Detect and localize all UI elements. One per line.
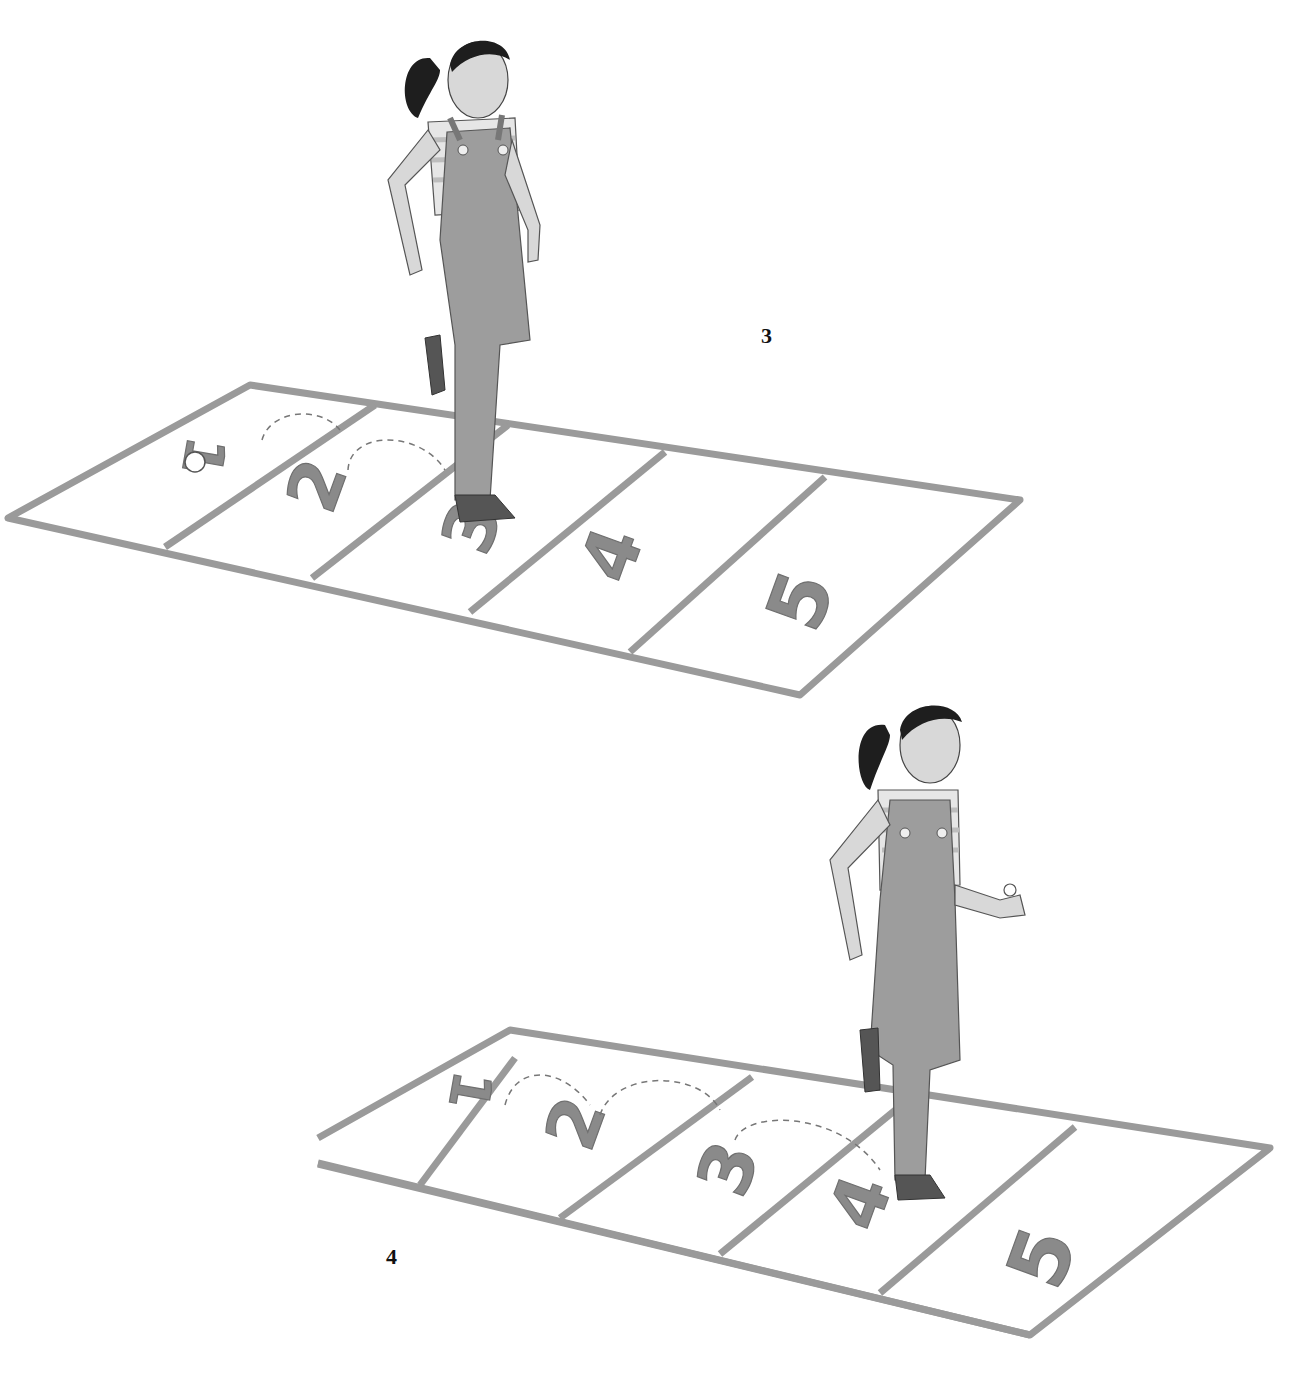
svg-text:5: 5 — [989, 1216, 1095, 1300]
step-label-4: 4 — [386, 1244, 397, 1270]
hopscotch-numbers-step-3: 1 2 3 4 5 — [169, 432, 852, 641]
hopscotch-numbers-step-4: 1 2 3 4 5 — [436, 1066, 1095, 1299]
svg-text:1: 1 — [436, 1066, 505, 1114]
girl-figure-step-3 — [388, 41, 540, 522]
step-label-3: 3 — [761, 323, 772, 349]
stone-icon — [1004, 884, 1016, 896]
hopscotch-grid-step-3 — [8, 385, 1020, 695]
girl-figure-step-4 — [830, 706, 1025, 1200]
svg-text:5: 5 — [749, 560, 852, 642]
stone-icon — [185, 452, 205, 472]
svg-text:3: 3 — [680, 1131, 776, 1207]
svg-text:4: 4 — [564, 516, 660, 592]
svg-text:2: 2 — [529, 1086, 623, 1160]
svg-text:2: 2 — [270, 449, 364, 523]
hopscotch-illustration: 1 2 3 4 5 — [0, 0, 1293, 1380]
svg-text:4: 4 — [812, 1164, 908, 1240]
